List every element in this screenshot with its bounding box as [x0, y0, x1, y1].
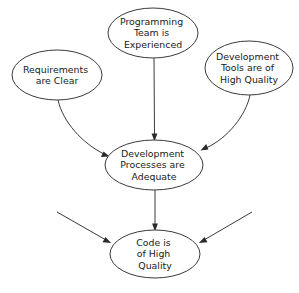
node-programming-team[interactable]: Programming Team is Experienced [108, 8, 198, 58]
arrowhead-icon [201, 144, 209, 151]
edge-line [204, 212, 252, 240]
edge-external-right-to-code [199, 212, 252, 243]
edge-line [57, 212, 106, 240]
edge-processes-to-code [152, 190, 158, 232]
node-code-quality[interactable]: Code is of High Quality [110, 230, 200, 278]
node-development-tools[interactable]: Development Tools are of High Quality [205, 41, 293, 95]
edge-line [206, 95, 250, 148]
causal-diagram: Programming Team is Experienced Requirem… [0, 0, 299, 293]
edge-tools-to-processes [201, 95, 251, 150]
edge-line [58, 100, 104, 154]
arrowhead-icon [103, 237, 112, 243]
node-label-code-quality: Code is of High Quality [136, 237, 173, 271]
arrowhead-icon [199, 237, 208, 243]
diagram-canvas: Programming Team is Experienced Requirem… [0, 0, 299, 293]
node-development-processes[interactable]: Development Processes are Adequate [105, 140, 203, 190]
edge-requirements-to-processes [58, 100, 110, 157]
node-label-development-tools: Development Tools are of High Quality [216, 51, 282, 85]
edge-external-left-to-code [57, 212, 111, 243]
edge-team-to-processes [152, 58, 158, 142]
node-requirements-clear[interactable]: Requirements are Clear [12, 50, 102, 100]
edge-line [154, 58, 155, 136]
